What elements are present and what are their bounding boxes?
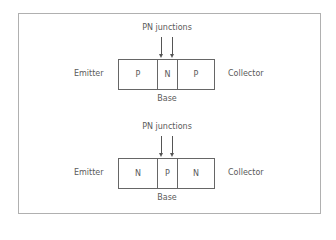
pnp-transistor-block: P N P xyxy=(118,59,215,90)
junction-arrow-icon xyxy=(172,136,173,154)
npn-region-base: P xyxy=(157,159,177,188)
junction-arrow-icon xyxy=(172,37,173,55)
npn-junctions-title: PN junctions xyxy=(142,122,192,131)
npn-region-collector: N xyxy=(177,159,214,188)
npn-region-emitter: N xyxy=(119,159,157,188)
pnp-region-base: N xyxy=(157,60,177,89)
pnp-collector-label: Collector xyxy=(228,69,264,78)
pnp-junctions-title: PN junctions xyxy=(142,23,192,32)
pnp-emitter-label: Emitter xyxy=(74,69,104,78)
npn-collector-label: Collector xyxy=(228,168,264,177)
pnp-region-collector: P xyxy=(177,60,214,89)
npn-base-label: Base xyxy=(157,193,176,202)
junction-arrow-icon xyxy=(161,37,162,55)
npn-emitter-label: Emitter xyxy=(74,168,104,177)
pnp-region-emitter: P xyxy=(119,60,157,89)
npn-transistor-block: N P N xyxy=(118,158,215,189)
junction-arrow-icon xyxy=(161,136,162,154)
pnp-base-label: Base xyxy=(157,94,176,103)
